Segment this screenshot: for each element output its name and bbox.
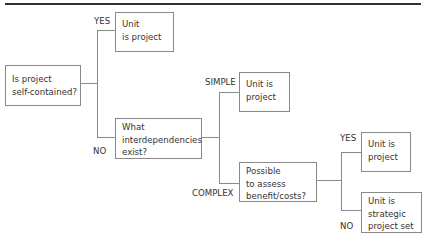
node-text: Unit is [368, 195, 421, 208]
node-text: Is project [12, 73, 80, 86]
connector [341, 152, 342, 211]
node-text: Possible [246, 165, 316, 178]
connector [219, 92, 239, 93]
connector [341, 152, 361, 153]
connector [97, 30, 115, 31]
node-text: exist? [122, 146, 201, 159]
edge-label-yes: YES [94, 16, 110, 26]
node-text: What [122, 121, 201, 134]
node-simple-unit-is-project: Unit is project [239, 72, 290, 112]
node-text: Unit is [246, 78, 289, 91]
node-unit-is-project: Unit is project [115, 12, 174, 52]
edge-label-simple: SIMPLE [205, 77, 236, 87]
node-text: interdependencies [122, 134, 201, 147]
edge-label-no: NO [340, 221, 353, 231]
connector [202, 137, 219, 138]
connector [81, 83, 97, 84]
node-text: project set [368, 220, 421, 233]
node-text: project [368, 151, 410, 164]
node-text: Unit [122, 18, 173, 31]
node-text: benefit/costs? [246, 190, 316, 203]
node-assess-benefit-costs: Possible to assess benefit/costs? [239, 162, 317, 202]
connector [341, 210, 361, 211]
connector [219, 92, 220, 184]
connector [317, 180, 341, 181]
edge-label-complex: COMPLEX [192, 188, 233, 198]
connector [97, 137, 115, 138]
edge-label-yes: YES [340, 133, 356, 143]
node-self-contained: Is project self-contained? [5, 65, 81, 106]
node-interdependencies: What interdependencies exist? [115, 118, 202, 159]
node-text: Unit is [368, 138, 410, 151]
node-text: self-contained? [12, 86, 80, 99]
node-strategic-project-set: Unit is strategic project set [361, 192, 422, 233]
node-text: is project [122, 31, 173, 44]
top-rule [5, 3, 421, 5]
connector [219, 183, 239, 184]
connector [97, 30, 98, 138]
node-text: strategic [368, 208, 421, 221]
node-assess-yes-unit-is-project: Unit is project [361, 132, 411, 172]
node-text: project [246, 91, 289, 104]
node-text: to assess [246, 178, 316, 191]
edge-label-no: NO [93, 146, 106, 156]
